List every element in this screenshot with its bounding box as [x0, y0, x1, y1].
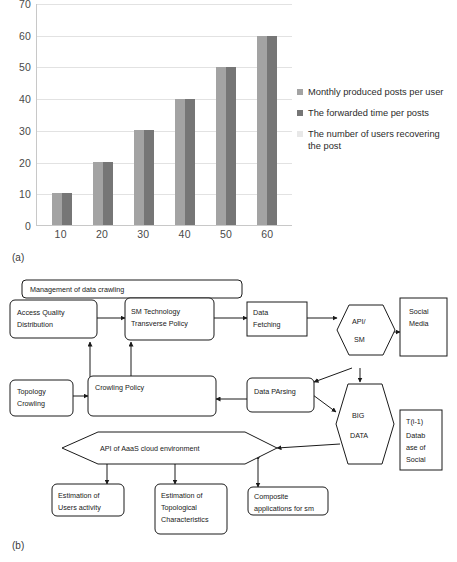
bar-group	[257, 4, 277, 225]
legend-swatch-icon	[297, 131, 303, 137]
label-big-data-1: BIG	[352, 411, 365, 420]
legend-label: The forwarded time per posts	[308, 107, 429, 119]
y-tick-label: 70	[1, 0, 31, 10]
x-tick-label: 40	[172, 228, 198, 246]
y-tick-label: 30	[1, 125, 31, 137]
label-access-quality-2: Distribution	[17, 320, 53, 329]
bar	[52, 193, 62, 225]
label-estimation-users-1: Estimation of	[58, 491, 100, 500]
bar	[185, 99, 195, 225]
label-estimation-topological-2: Topological	[161, 503, 197, 512]
legend-swatch-icon	[297, 110, 303, 116]
label-topology-crowling-2: Crowling	[17, 399, 45, 408]
legend-item: The forwarded time per posts	[297, 107, 455, 119]
label-estimation-topological-1: Estimation of	[161, 491, 203, 500]
y-axis: 70 60 50 40 30 20 10 0	[0, 4, 34, 226]
legend-label: The number of users recovering the post	[308, 128, 455, 152]
bar	[216, 67, 226, 225]
label-topology-crowling-1: Topology	[17, 387, 46, 396]
x-tick-label: 10	[48, 228, 74, 246]
bar-group	[93, 4, 113, 225]
label-data-parsing: Data PArsing	[254, 387, 296, 396]
label-estimation-topological-3: Characteristics	[161, 515, 209, 524]
y-tick-label: 20	[1, 157, 31, 169]
bar	[175, 99, 185, 225]
bar	[93, 162, 103, 225]
y-tick-label: 60	[1, 30, 31, 42]
label-api-aaas: API of AaaS cloud environment	[100, 444, 200, 453]
bar	[257, 36, 267, 225]
x-tick-label: 20	[89, 228, 115, 246]
y-tick-label: 0	[1, 220, 31, 232]
label-sm-technology-2: Transverse Policy	[131, 319, 188, 328]
arrow-apism-to-parsing	[314, 368, 352, 382]
node-big-data[interactable]	[336, 384, 394, 464]
diagram-canvas: Management of data crawling Access Quali…	[0, 272, 457, 562]
bar-group	[134, 4, 154, 225]
label-composite-apps-2: applications for sm	[254, 504, 314, 513]
bar	[226, 67, 236, 225]
y-tick-label: 50	[1, 61, 31, 73]
y-tick-label: 40	[1, 93, 31, 105]
legend-item: Monthly produced posts per user	[297, 86, 455, 98]
label-composite-apps-1: Composite	[254, 492, 288, 501]
bar	[62, 193, 72, 225]
legend-item: The number of users recovering the post	[297, 128, 455, 152]
x-tick-label: 60	[254, 228, 280, 246]
x-tick-label: 30	[130, 228, 156, 246]
bar-group	[216, 4, 236, 225]
node-topology-crowling[interactable]	[10, 380, 73, 416]
label-api-sm-1: API/	[352, 317, 366, 326]
label-social-media-2: Media	[409, 319, 429, 328]
node-crowling-policy[interactable]	[88, 376, 216, 416]
label-sm-technology-1: SM Technology	[131, 307, 180, 316]
arrow-parsing-to-bigdata	[313, 395, 336, 412]
label-social-media-1: Social	[409, 307, 429, 316]
x-tick-label: 50	[213, 228, 239, 246]
label-estimation-users-2: Users activity	[58, 503, 101, 512]
label-api-sm-2: SM	[354, 335, 365, 344]
label-data-fetching-2: Fetching	[253, 320, 281, 329]
node-api-sm[interactable]	[337, 305, 395, 355]
chart-legend: Monthly produced posts per user The forw…	[297, 86, 455, 161]
node-access-quality[interactable]	[10, 300, 97, 338]
bar	[267, 36, 277, 225]
figure-b-diagram: Management of data crawling Access Quali…	[0, 272, 457, 562]
plot-area	[36, 4, 292, 226]
bar	[144, 130, 154, 225]
label-access-quality-1: Access Quality	[17, 308, 65, 317]
label-database-social-4: Social	[406, 455, 426, 464]
x-axis: 102030405060	[36, 228, 292, 246]
arrow-bigdata-to-apiaaas	[277, 444, 340, 448]
bar-group	[52, 4, 72, 225]
panel-label-b: (b)	[12, 540, 24, 551]
label-big-data-2: DATA	[350, 431, 368, 440]
bar	[103, 162, 113, 225]
label-crowling-policy: Crowling Policy	[95, 383, 145, 392]
label-management: Management of data crawling	[30, 285, 124, 294]
bar	[134, 130, 144, 225]
bar-group	[175, 4, 195, 225]
label-database-social-1: T(i-1)	[406, 417, 423, 426]
legend-label: Monthly produced posts per user	[308, 86, 443, 98]
bar-chart: 70 60 50 40 30 20 10 0 102030405060	[0, 4, 300, 254]
figure-a-chart: 70 60 50 40 30 20 10 0 102030405060 Mont…	[0, 0, 457, 272]
y-tick-label: 10	[1, 188, 31, 200]
label-database-social-3: ase of	[406, 443, 426, 452]
bar-groups	[37, 4, 292, 225]
label-data-fetching-1: Data	[253, 308, 268, 317]
legend-swatch-icon	[297, 89, 303, 95]
label-database-social-2: Datab	[406, 431, 425, 440]
panel-label-a: (a)	[12, 252, 24, 263]
